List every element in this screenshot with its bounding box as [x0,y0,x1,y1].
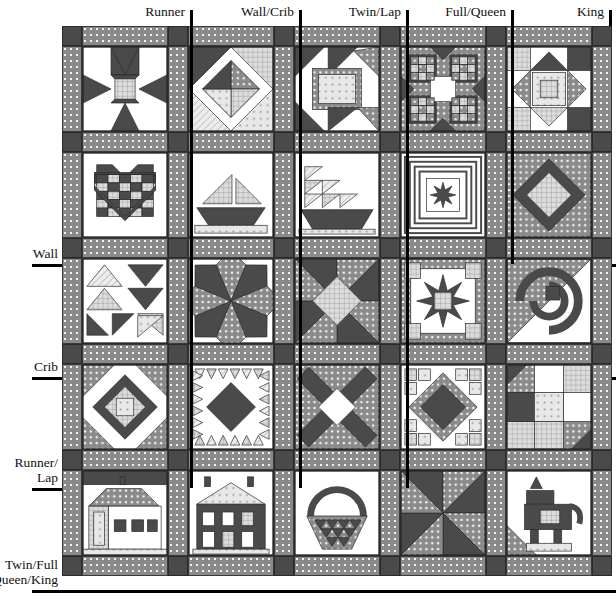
row-label-line: Runner/ [15,455,59,470]
quilt-block-two-story-house [188,470,274,556]
sashing-cornerstone [168,238,188,258]
row-label-line: Lap [15,470,59,485]
sashing-vertical [168,152,188,238]
sashing-horizontal [400,556,486,576]
quilt-block-card-trick-pinwheel [188,46,274,132]
sashing-cornerstone [592,238,612,258]
column-header-runner: Runner [145,4,185,20]
sashing-horizontal [506,450,592,470]
column-header-twin-lap: Twin/Lap [349,4,401,20]
sashing-vertical [168,258,188,344]
row-label-0: Wall [33,246,58,261]
sashing-horizontal [294,556,380,576]
quilt-block-dutch-pinwheel-star [400,470,486,556]
row-label-line: Crib [34,359,58,374]
quilt-block-grid [62,26,610,590]
sashing-cornerstone [592,344,612,364]
quilt-block-nine-patch-star [506,46,592,132]
sashing-cornerstone [62,238,82,258]
sashing-cornerstone [274,26,294,46]
sashing-horizontal [400,132,486,152]
sashing-cornerstone [62,556,82,576]
step-vertical-fullqueen [511,26,514,264]
quilt-block-four-patch-scrappy [506,364,592,450]
sashing-cornerstone [380,344,400,364]
sashing-vertical [486,46,506,132]
sashing-horizontal [188,26,274,46]
sashing-vertical [486,258,506,344]
sashing-horizontal [188,344,274,364]
sashing-vertical [486,152,506,238]
sashing-vertical [380,470,400,556]
quilt-block-bear-paw-cross [400,46,486,132]
sashing-cornerstone [486,26,506,46]
quilt-block-ohio-star-variation [82,46,168,132]
sashing-cornerstone [62,344,82,364]
sashing-cornerstone [274,344,294,364]
sashing-horizontal [82,238,168,258]
sashing-horizontal [82,450,168,470]
sashing-cornerstone [592,450,612,470]
sashing-horizontal [188,238,274,258]
sashing-cornerstone [486,132,506,152]
sashing-horizontal [82,344,168,364]
sashing-vertical [62,470,82,556]
sashing-cornerstone [62,450,82,470]
quilt-block-schoolhouse [82,470,168,556]
sashing-horizontal [400,238,486,258]
sashing-cornerstone [592,556,612,576]
row-label-line: Twin/Full [0,557,58,572]
sashing-horizontal [294,450,380,470]
sashing-vertical [592,364,612,450]
sashing-cornerstone [274,132,294,152]
sashing-horizontal [506,238,592,258]
sashing-vertical [274,258,294,344]
sashing-horizontal [82,556,168,576]
sashing-vertical [380,364,400,450]
sashing-vertical [592,470,612,556]
quilt-block-square-in-square-star [82,364,168,450]
step-vertical-wallcrib [299,26,302,488]
column-tick-4 [609,10,612,26]
sashing-cornerstone [486,344,506,364]
sashing-vertical [274,152,294,238]
sashing-horizontal [506,132,592,152]
sashing-cornerstone [168,26,188,46]
quilt-block-log-cabin-star [400,152,486,238]
sashing-cornerstone [274,556,294,576]
step-vertical-twinlap [406,26,409,488]
sashing-vertical [168,364,188,450]
sashing-vertical [592,258,612,344]
step-vertical-runner [190,26,193,488]
sashing-cornerstone [62,26,82,46]
sashing-cornerstone [380,556,400,576]
sashing-vertical [486,470,506,556]
quilt-block-snail-trail [506,258,592,344]
sashing-cornerstone [486,450,506,470]
sashing-cornerstone [168,556,188,576]
sashing-horizontal [188,556,274,576]
bottom-rule [62,590,610,593]
column-header-full-queen: Full/Queen [445,4,506,20]
sashing-vertical [168,470,188,556]
sashing-cornerstone [62,132,82,152]
sashing-vertical [274,46,294,132]
sashing-vertical [62,258,82,344]
column-header-wall-crib: Wall/Crib [241,4,294,20]
sashing-cornerstone [486,238,506,258]
sashing-horizontal [294,132,380,152]
column-tick-3 [511,10,514,26]
sashing-cornerstone [168,132,188,152]
column-tick-2 [406,10,409,26]
sashing-vertical [380,258,400,344]
quilt-block-flying-geese-fan [82,258,168,344]
sashing-cornerstone [486,556,506,576]
quilt-block-feathered-diamond [188,364,274,450]
quilt-block-diamond-medallion [400,364,486,450]
sashing-cornerstone [274,238,294,258]
quilt-block-on-point-diamond [506,152,592,238]
sashing-vertical [62,364,82,450]
sashing-horizontal [82,132,168,152]
sashing-cornerstone [592,26,612,46]
sashing-horizontal [400,450,486,470]
